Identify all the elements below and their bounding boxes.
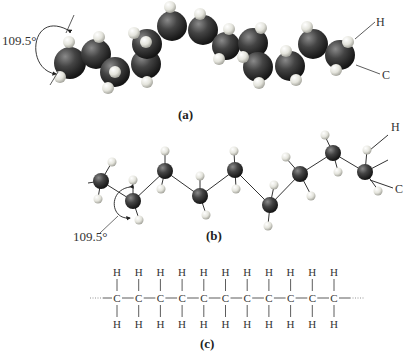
angle-annotation-b: 109.5° — [73, 187, 130, 244]
hydrogen-symbol-top: H — [243, 266, 251, 278]
hydrogen-symbol-top: H — [178, 266, 186, 278]
carbon-symbol: C — [265, 292, 272, 304]
caption-a: (a) — [178, 107, 193, 122]
angle-label-b: 109.5° — [73, 229, 107, 244]
hydrogen-symbol-top: H — [222, 266, 230, 278]
hydrogen-symbol-top: H — [113, 266, 121, 278]
repeat-unit: CHH — [308, 266, 329, 330]
repeat-units: CHHCHHCHHCHHCHHCHHCHHCHHCHHCHHCHH — [113, 266, 338, 330]
hydrogen-symbol-top: H — [330, 266, 338, 278]
repeat-unit: CHH — [243, 266, 264, 330]
hydrogen-atoms — [94, 131, 383, 231]
hydrogen-symbol-top: H — [287, 266, 295, 278]
carbon-symbol: C — [178, 292, 185, 304]
repeat-unit: CHH — [265, 266, 286, 330]
hydrogen-symbol-top: H — [265, 266, 273, 278]
repeat-unit: CHH — [287, 266, 308, 330]
carbon-symbol: C — [244, 292, 251, 304]
panel-b-ball-and-stick-model: 109.5° H C (b) — [73, 120, 403, 244]
hydrogen-symbol-bottom: H — [113, 318, 121, 330]
hydrogen-symbol-top: H — [308, 266, 316, 278]
carbon-symbol: C — [287, 292, 294, 304]
caption-b: (b) — [206, 228, 222, 243]
hydrogen-symbol-bottom: H — [135, 318, 143, 330]
carbon-symbol: C — [113, 292, 120, 304]
panel-a-space-filling-model: 109.5° H C (a) — [2, 1, 390, 122]
hydrogen-symbol-bottom: H — [330, 318, 338, 330]
hydrogen-symbol-bottom: H — [178, 318, 186, 330]
repeat-unit: CHH — [222, 266, 243, 330]
hydrogen-symbol-top: H — [156, 266, 164, 278]
carbon-symbol: C — [330, 292, 337, 304]
panel-c-structural-formula: CHHCHHCHHCHHCHHCHHCHHCHHCHHCHHCHH (c) — [90, 266, 364, 351]
repeat-unit: CHH — [135, 266, 156, 330]
hydrogen-symbol-bottom: H — [200, 318, 208, 330]
repeat-unit: CHH — [200, 266, 221, 330]
repeat-unit: CHH — [113, 266, 134, 330]
repeat-unit: CHH — [330, 266, 338, 330]
hydrogen-symbol-bottom: H — [265, 318, 273, 330]
repeat-unit: CHH — [178, 266, 199, 330]
end-label-h-b: H — [391, 120, 400, 134]
hydrogen-symbol-top: H — [200, 266, 208, 278]
hydrogen-symbol-bottom: H — [287, 318, 295, 330]
carbon-symbol: C — [309, 292, 316, 304]
carbon-symbol: C — [222, 292, 229, 304]
carbon-symbol: C — [157, 292, 164, 304]
carbon-symbol: C — [135, 292, 142, 304]
hydrogen-symbol-bottom: H — [222, 318, 230, 330]
end-label-h-a: H — [376, 15, 385, 29]
caption-c: (c) — [200, 336, 214, 351]
hydrogen-symbol-bottom: H — [243, 318, 251, 330]
end-label-c-b: C — [395, 182, 403, 196]
hydrogen-symbol-bottom: H — [156, 318, 164, 330]
end-label-c-a: C — [382, 68, 390, 82]
hydrogen-symbol-top: H — [135, 266, 143, 278]
carbon-symbol: C — [200, 292, 207, 304]
angle-label-a: 109.5° — [2, 33, 36, 48]
repeat-unit: CHH — [156, 266, 177, 330]
polyethylene-diagram: 109.5° H C (a) — [0, 0, 417, 355]
hydrogen-symbol-bottom: H — [308, 318, 316, 330]
